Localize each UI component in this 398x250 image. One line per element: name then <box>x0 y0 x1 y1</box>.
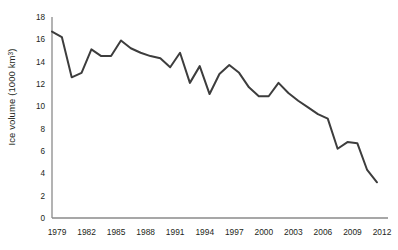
x-axis-tick-label: 2003 <box>284 227 303 237</box>
x-axis-tick-label: 1991 <box>166 227 185 237</box>
x-axis-tick-label: 1985 <box>107 227 126 237</box>
y-axis-tick-labels: 024681012141618 <box>36 13 46 223</box>
y-axis-tick-label: 10 <box>36 102 46 111</box>
x-axis-tick-label: 2009 <box>343 227 362 237</box>
y-axis-tick-label: 16 <box>36 35 46 44</box>
y-axis-tick-label: 8 <box>40 125 45 134</box>
y-axis-tick-label: 2 <box>40 192 45 201</box>
x-axis-tick-label: 1979 <box>48 227 67 237</box>
ice-volume-series-line <box>52 32 377 183</box>
y-axis-tick-label: 0 <box>40 214 45 223</box>
x-axis-tick-label: 1982 <box>77 227 96 237</box>
y-axis-tick-label: 12 <box>36 80 46 89</box>
x-axis-tick-label: 2000 <box>254 227 273 237</box>
x-axis-tick-labels: 1979198219851988199119941997200020032006… <box>48 227 392 237</box>
x-axis-tick-label: 2012 <box>373 227 392 237</box>
y-axis-tick-label: 18 <box>36 13 46 22</box>
x-axis-tick-label: 1988 <box>136 227 155 237</box>
chart-container: Ice volume (1000 km3) 024681012141618 19… <box>0 0 398 250</box>
y-axis-tick-label: 6 <box>40 147 45 156</box>
x-axis-tick-label: 1994 <box>195 227 214 237</box>
x-axis-tick-label: 2006 <box>314 227 333 237</box>
y-axis-tick-label: 4 <box>40 169 45 178</box>
line-chart-plot: 024681012141618 197919821985198819911994… <box>0 0 398 250</box>
y-axis-tick-label: 14 <box>36 58 46 67</box>
x-axis-tick-label: 1997 <box>225 227 244 237</box>
